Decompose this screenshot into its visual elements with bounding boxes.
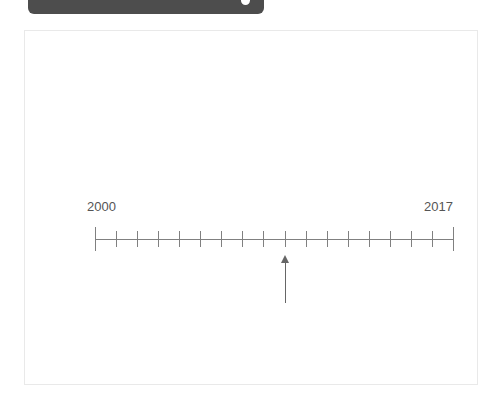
- timeline-tick: [242, 231, 243, 247]
- timeline-tick-endpoint: [95, 227, 96, 251]
- timeline-tick-endpoint: [453, 227, 454, 251]
- timeline-tick: [116, 231, 117, 247]
- timeline-tick: [137, 231, 138, 247]
- timeline-tick: [369, 231, 370, 247]
- timeline-tick: [158, 231, 159, 247]
- timeline-tick: [327, 231, 328, 247]
- timeline-tick: [200, 231, 201, 247]
- timeline-tick: [411, 231, 412, 247]
- timeline-tick: [432, 231, 433, 247]
- toolbar-knob-icon[interactable]: [241, 0, 250, 5]
- arrow-shaft: [285, 261, 286, 303]
- timeline-tick: [306, 231, 307, 247]
- content-panel: 2000 2017: [24, 30, 478, 385]
- toolbar-pill[interactable]: [28, 0, 264, 14]
- timeline-start-label: 2000: [87, 199, 116, 214]
- timeline-tick: [179, 231, 180, 247]
- timeline-tick: [221, 231, 222, 247]
- timeline-end-label: 2017: [424, 199, 453, 214]
- timeline-tick: [390, 231, 391, 247]
- timeline-tick: [285, 231, 286, 247]
- timeline-tick: [348, 231, 349, 247]
- timeline-tick: [263, 231, 264, 247]
- timeline-axis-line: [95, 239, 453, 240]
- timeline-marker-arrow[interactable]: [280, 255, 291, 303]
